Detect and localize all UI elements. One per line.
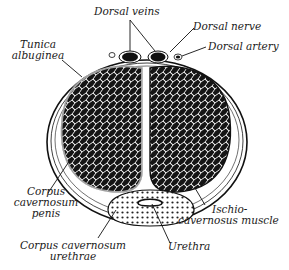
label-ccu-line2: urethrae xyxy=(10,251,136,262)
label-tunica-line2: albuginea xyxy=(8,50,68,61)
label-dorsal-artery: Dorsal artery xyxy=(208,41,279,52)
label-dorsal-nerve: Dorsal nerve xyxy=(193,21,261,32)
label-ischio-line2: cavernosus muscle xyxy=(178,215,279,226)
label-ischiocavernosus: Ischio- cavernosus muscle xyxy=(200,204,279,226)
anatomy-diagram: Dorsal veins Dorsal nerve Dorsal artery … xyxy=(0,0,289,270)
label-corpus-cavernosum-urethrae: Corpus cavernosum urethrae xyxy=(10,240,136,262)
label-corpus-cavernosum-penis: Corpus cavernosum penis xyxy=(12,186,80,219)
label-tunica-albuginea: Tunica albuginea xyxy=(8,39,68,61)
label-urethra: Urethra xyxy=(168,241,210,252)
label-ccp-line3: penis xyxy=(12,208,80,219)
label-dorsal-veins: Dorsal veins xyxy=(94,6,160,17)
